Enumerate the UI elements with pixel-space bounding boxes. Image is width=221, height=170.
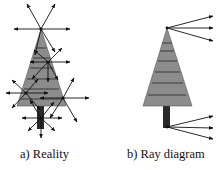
tree-a (17, 29, 66, 129)
panel-a-reality (6, 4, 89, 138)
bottom-point (166, 126, 169, 129)
tree-b (143, 28, 192, 128)
top-point (166, 27, 169, 30)
bottom-rays (167, 116, 213, 139)
tree-trunk (163, 105, 170, 128)
caption-ray-diagram: b) Ray diagram (127, 147, 205, 162)
caption-reality: a) Reality (20, 147, 69, 162)
panel-b-ray-diagram (143, 16, 213, 139)
ray-diagram-figure (0, 0, 221, 170)
tree-foliage (143, 28, 192, 106)
top-rays (167, 16, 213, 41)
